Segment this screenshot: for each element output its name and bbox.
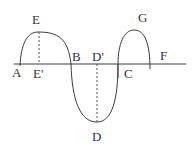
- crest-arc-e: [20, 32, 71, 66]
- wave-diagram: A E E' B D' D C G F: [0, 0, 196, 150]
- label-b: B: [72, 49, 81, 64]
- diagram-svg: A E E' B D' D C G F: [0, 0, 196, 150]
- label-d: D: [92, 129, 101, 144]
- crest-arc-g: [118, 30, 150, 78]
- trough-arc-d: [71, 64, 118, 122]
- label-f: F: [160, 48, 167, 63]
- label-a: A: [12, 65, 22, 80]
- label-g: G: [138, 10, 147, 25]
- label-e-prime: E': [33, 66, 43, 81]
- label-e: E: [32, 12, 40, 27]
- label-d-prime: D': [92, 49, 104, 64]
- label-c: C: [124, 66, 133, 81]
